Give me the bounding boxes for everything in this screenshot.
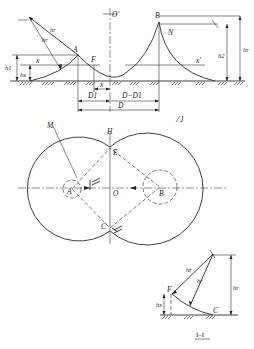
- label-d-minus-d1: D−D1: [121, 91, 142, 100]
- label-x-dim: x: [99, 80, 104, 89]
- label-h2: h2: [218, 52, 225, 59]
- label-hr-2: hr: [197, 277, 203, 284]
- label-e: E: [112, 148, 118, 157]
- label-x: x: [35, 56, 40, 65]
- label-m: M: [46, 121, 54, 130]
- section-radius-1: [172, 254, 213, 294]
- section-view: F C hr hr hx hr I–I: [156, 250, 239, 339]
- label-hr-right: hr: [243, 46, 249, 53]
- label-hr-lower: hr: [42, 36, 48, 43]
- section-caption: I–I: [196, 331, 205, 339]
- label-j: J: [180, 115, 184, 124]
- label-a-plan: A: [66, 187, 72, 196]
- label-d1: D1: [87, 91, 97, 100]
- label-hx: hx: [20, 71, 26, 78]
- label-h: H: [106, 127, 113, 136]
- elevation-view: A B F N O' x x' h1 hx hr hr h2 hr x D1 D…: [5, 8, 249, 112]
- label-hr-total: hr: [233, 284, 239, 291]
- label-o-prime: O': [112, 10, 119, 19]
- radius-hr-line: [29, 17, 78, 55]
- label-f: F: [90, 55, 96, 64]
- label-x-prime: x': [195, 56, 201, 65]
- protection-zone-diagram: A B F N O' x x' h1 hx hr hr h2 hr x D1 D…: [0, 0, 254, 349]
- protection-circle-b: [110, 133, 203, 245]
- ground-hatch: [20, 82, 243, 85]
- label-c-section: C: [213, 306, 219, 315]
- label-n: N: [167, 28, 174, 37]
- label-h1: h1: [5, 64, 12, 71]
- label-d: D: [117, 101, 124, 110]
- label-b: B: [155, 11, 160, 20]
- m-leader-line: [53, 126, 77, 178]
- plan-view: M H E A O B C J: [18, 115, 228, 245]
- protection-curve-middle: [78, 22, 159, 77]
- section-mark-c: [112, 226, 122, 233]
- label-c: C: [101, 222, 107, 231]
- label-hr-1: hr: [186, 266, 192, 273]
- label-b-plan: B: [159, 189, 164, 198]
- section-curve: [172, 294, 213, 315]
- label-o: O: [113, 189, 119, 198]
- label-hx-section: hx: [156, 301, 162, 308]
- rod-b-inner-circle: [143, 170, 177, 204]
- label-f-section: F: [166, 285, 172, 294]
- label-a: A: [72, 45, 78, 54]
- label-hr-upper: hr: [50, 26, 56, 33]
